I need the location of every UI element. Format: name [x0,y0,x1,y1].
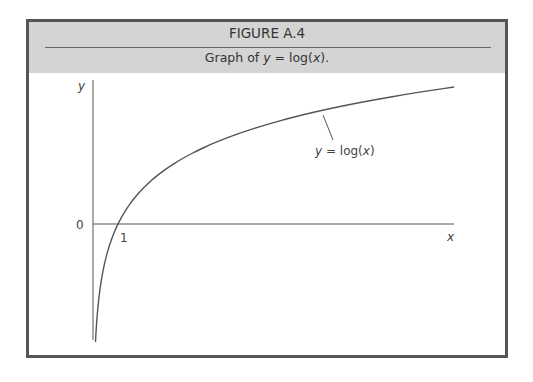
log-chart: y 0 1 x y = log(x) [0,0,533,382]
x-axis-label: x [446,230,455,244]
log-curve [96,87,455,342]
curve-annotation: y = log(x) [314,144,375,158]
zero-tick-label: 0 [76,218,84,232]
y-axis-label: y [77,79,86,93]
annotation-leader [323,115,333,140]
one-tick-label: 1 [120,231,128,245]
